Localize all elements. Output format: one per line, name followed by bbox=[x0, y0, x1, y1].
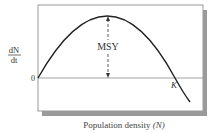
xlabel-symbol: (N) bbox=[153, 120, 165, 130]
ylabel-numerator: dN bbox=[9, 45, 19, 55]
logistic-yield-diagram: MSY K 0 dN dt Population density (N) bbox=[0, 0, 215, 133]
ylabel-denominator: dt bbox=[11, 55, 18, 65]
xlabel-text: Population density bbox=[83, 120, 151, 130]
k-label: K bbox=[170, 80, 178, 90]
plot-frame bbox=[38, 5, 203, 111]
xlabel: Population density (N) bbox=[83, 120, 165, 130]
msy-label: MSY bbox=[97, 41, 119, 52]
origin-label: 0 bbox=[31, 74, 35, 83]
